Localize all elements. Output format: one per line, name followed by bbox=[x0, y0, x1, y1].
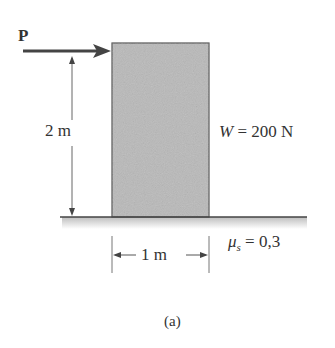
diagram-canvas bbox=[0, 0, 335, 348]
figure-caption: (a) bbox=[164, 313, 181, 330]
block bbox=[112, 43, 209, 217]
friction-symbol: μ bbox=[228, 232, 237, 251]
friction-subscript: s bbox=[237, 241, 241, 253]
height-label: 2 m bbox=[45, 121, 71, 141]
force-arrow-p bbox=[23, 44, 111, 58]
weight-value: = 200 N bbox=[237, 122, 293, 141]
weight-label: W = 200 N bbox=[219, 122, 293, 142]
friction-value: = 0,3 bbox=[245, 232, 280, 251]
width-label: 1 m bbox=[141, 245, 167, 265]
ground-shading bbox=[62, 217, 307, 229]
force-label: P bbox=[18, 26, 28, 46]
friction-label: μs = 0,3 bbox=[228, 232, 280, 253]
weight-symbol: W bbox=[219, 122, 233, 141]
